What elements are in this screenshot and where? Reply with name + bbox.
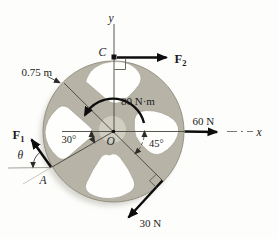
- point-marker-o: [112, 130, 116, 134]
- label-force-f1: F1: [13, 128, 25, 144]
- point-marker-c: [112, 55, 117, 60]
- label-point-o: O: [107, 135, 116, 147]
- line-oa-extension: [23, 167, 52, 184]
- label-force-30n: 30 N: [140, 217, 162, 229]
- horizontal-ref-line-a: [8, 168, 52, 169]
- angle-arc-theta: [33, 152, 41, 167]
- label-theta: θ: [18, 149, 24, 161]
- label-force-60n: 60 N: [193, 115, 215, 127]
- label-x-axis: x: [256, 126, 263, 138]
- label-point-c: C: [99, 46, 107, 58]
- label-angle-45: 45°: [149, 138, 164, 149]
- label-y-axis: y: [108, 12, 115, 25]
- label-point-a: A: [39, 174, 48, 186]
- statics-wheel-figure: y x C O A θ 30° 45° 80 N·m 0.75 m 60 N 3…: [0, 0, 278, 239]
- label-angle-30: 30°: [62, 134, 77, 145]
- label-radius: 0.75 m: [22, 66, 53, 78]
- wheel-diagram-svg: y x C O A θ 30° 45° 80 N·m 0.75 m 60 N 3…: [0, 0, 278, 239]
- label-moment: 80 N·m: [121, 95, 155, 107]
- label-force-f2: F2: [175, 52, 187, 68]
- force-arrow-60n: [185, 132, 218, 133]
